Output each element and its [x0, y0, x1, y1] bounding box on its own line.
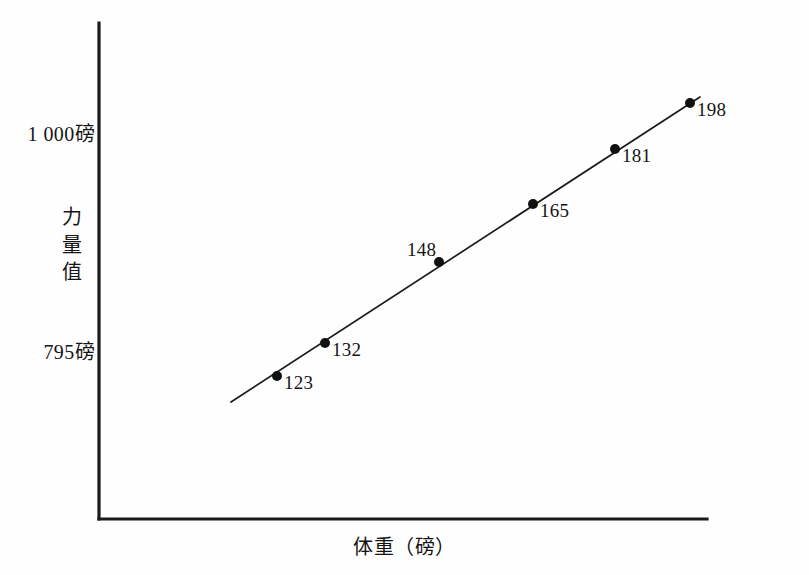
data-point-marker: [528, 199, 538, 209]
y-axis-title: 力 量 值: [58, 204, 86, 287]
data-point-label: 165: [540, 200, 569, 222]
strength-weight-scatter-chart: 1 000磅 795磅 力 量 值 体重（磅） 123 132 148 165 …: [0, 0, 809, 575]
data-point-label: 148: [407, 239, 436, 261]
data-point-label: 123: [284, 372, 313, 394]
data-point-label: 132: [332, 339, 361, 361]
y-axis-title-char: 量: [58, 232, 86, 260]
data-point-marker: [272, 371, 282, 381]
y-axis-title-char: 值: [58, 259, 86, 287]
chart-plot-area: [0, 0, 809, 575]
x-axis-title: 体重（磅）: [0, 531, 809, 560]
data-point-label: 198: [697, 99, 726, 121]
trend-line: [231, 97, 700, 402]
data-point-marker: [320, 338, 330, 348]
y-axis-title-char: 力: [58, 204, 86, 232]
y-axis-tick-label-lower: 795磅: [43, 336, 95, 365]
data-point-label: 181: [622, 145, 651, 167]
data-point-marker: [685, 98, 695, 108]
y-axis-tick-label-upper: 1 000磅: [28, 118, 95, 147]
data-point-marker: [610, 144, 620, 154]
